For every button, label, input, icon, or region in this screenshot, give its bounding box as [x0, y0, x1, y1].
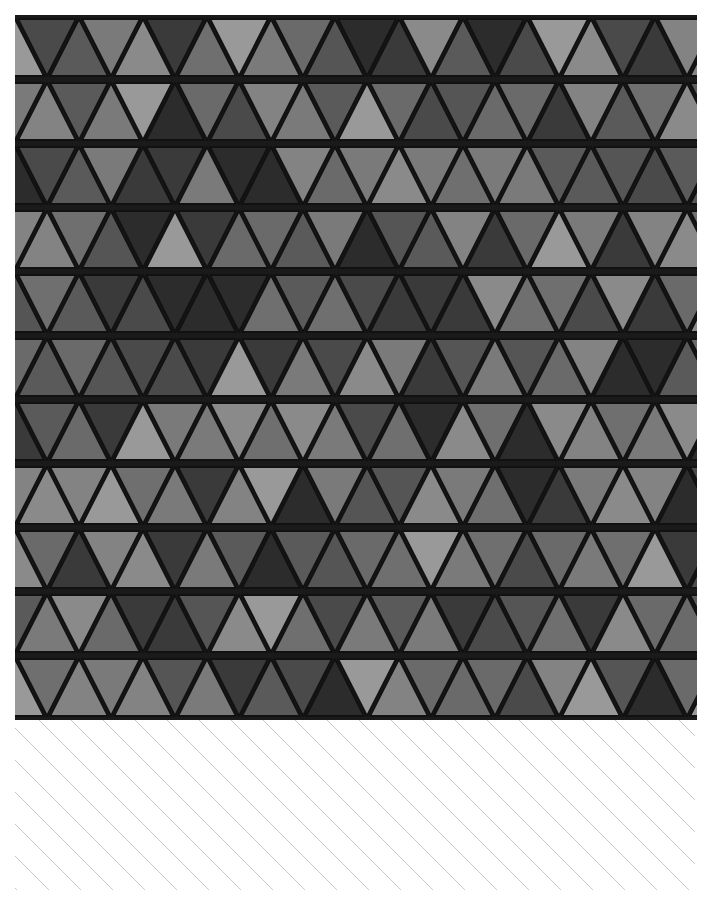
diagonal-hatch-area	[15, 720, 695, 890]
hatch-line	[455, 720, 625, 890]
hatch-line	[391, 720, 561, 890]
hatch-line	[39, 720, 209, 890]
hatch-line	[295, 720, 465, 890]
tile-pattern	[15, 15, 697, 720]
hatch-line	[519, 720, 689, 890]
hatch-line	[647, 720, 695, 890]
hatch-line	[135, 720, 305, 890]
hatch-line	[679, 720, 695, 890]
hatch-line	[615, 720, 695, 890]
hatch-line	[167, 720, 337, 890]
hatch-line	[487, 720, 657, 890]
hatch-line	[71, 720, 241, 890]
hatch-line	[103, 720, 273, 890]
hatch-line	[359, 720, 529, 890]
hatch-line	[15, 720, 81, 890]
hatch-line	[15, 720, 145, 890]
hatch-line	[327, 720, 497, 890]
hatch-line	[423, 720, 593, 890]
hatch-line	[15, 720, 17, 890]
hatch-line	[263, 720, 433, 890]
triangle-tile-photo	[15, 15, 697, 720]
hatch-line	[231, 720, 401, 890]
hatch-line	[199, 720, 369, 890]
